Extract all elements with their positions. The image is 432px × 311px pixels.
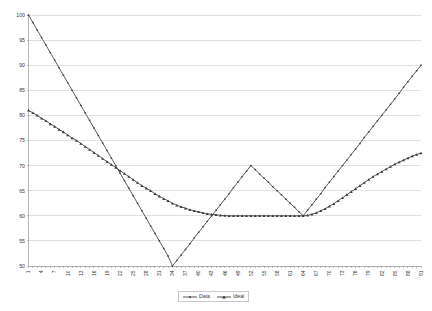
series-marker-data bbox=[372, 126, 374, 128]
x-axis-tick-label: 16 bbox=[91, 270, 97, 276]
series-marker-data bbox=[154, 233, 156, 235]
line-chart-plot: 50556065707580859095100 1471013161922252… bbox=[0, 0, 432, 311]
y-axis-tick-label: 50 bbox=[19, 263, 25, 269]
y-axis-tick-label: 70 bbox=[19, 163, 25, 169]
series-marker-data bbox=[63, 74, 64, 76]
series-marker-data bbox=[128, 187, 130, 189]
legend-entry-data[interactable]: Data bbox=[183, 294, 210, 300]
series-marker-data bbox=[407, 81, 409, 83]
y-axis-tick-label: 90 bbox=[19, 62, 25, 68]
x-axis-tick-label: 10 bbox=[65, 270, 71, 276]
series-marker-data bbox=[58, 67, 60, 69]
x-axis-tick-labels: 1471013161922252831343740434649525558616… bbox=[25, 270, 424, 276]
series-marker-data bbox=[106, 150, 108, 152]
series-marker-data bbox=[333, 176, 335, 178]
series-marker-data bbox=[141, 210, 143, 212]
x-axis-tick-label: 13 bbox=[78, 270, 84, 276]
x-axis-tick-label: 19 bbox=[104, 270, 110, 276]
series-marker-data bbox=[268, 181, 270, 183]
x-axis-tick-label: 55 bbox=[261, 270, 267, 276]
series-marker-data bbox=[281, 194, 283, 196]
series-marker-data bbox=[241, 176, 243, 178]
series-marker-data bbox=[368, 131, 370, 133]
y-axis-tick-label: 80 bbox=[19, 112, 25, 118]
series-marker-data bbox=[71, 90, 73, 92]
series-marker-data bbox=[50, 52, 52, 54]
series-marker-data bbox=[146, 218, 148, 220]
series-marker-data bbox=[311, 204, 313, 206]
series-marker-data bbox=[172, 265, 174, 267]
series-marker-data bbox=[298, 211, 300, 213]
series-marker-data bbox=[115, 165, 117, 167]
series-marker-data bbox=[329, 181, 331, 183]
x-axis-tick-label: 43 bbox=[208, 270, 214, 276]
series-marker-data bbox=[355, 148, 357, 150]
series-marker-data bbox=[84, 112, 86, 114]
x-axis-tick-label: 79 bbox=[365, 270, 371, 276]
series-marker-data bbox=[237, 181, 239, 183]
series-marker-data bbox=[403, 87, 405, 89]
series-marker-data bbox=[359, 143, 361, 145]
series-marker-data bbox=[89, 120, 91, 122]
series-marker-data bbox=[150, 225, 152, 227]
legend-entry-ideal[interactable]: Ideal bbox=[217, 294, 244, 300]
x-axis-tick-label: 67 bbox=[313, 270, 319, 276]
series-marker-data bbox=[32, 22, 34, 24]
series-marker-data bbox=[54, 59, 56, 61]
x-axis-tick-label: 88 bbox=[405, 270, 411, 276]
series-marker-data bbox=[398, 93, 400, 95]
legend-label: Data bbox=[199, 294, 210, 299]
series-marker-data bbox=[193, 237, 195, 239]
series-marker-data bbox=[381, 115, 383, 117]
series-marker-data bbox=[159, 240, 161, 242]
series-marker-data bbox=[263, 177, 265, 179]
x-axis-tick-label: 82 bbox=[379, 270, 385, 276]
x-axis-tick-label: 40 bbox=[195, 270, 201, 276]
y-axis-tick-label: 100 bbox=[16, 12, 25, 18]
series-line-ideal bbox=[29, 110, 422, 215]
series-marker-data bbox=[124, 180, 126, 182]
series-marker-data bbox=[394, 98, 396, 100]
series-marker-data bbox=[364, 137, 366, 139]
series-marker-ideal bbox=[27, 109, 30, 112]
series-marker-data bbox=[250, 165, 252, 167]
series-marker-data bbox=[163, 248, 165, 250]
series-marker-data bbox=[36, 29, 38, 31]
x-axis-tick-label: 91 bbox=[418, 270, 424, 276]
y-axis-tick-label: 85 bbox=[19, 87, 25, 93]
series-marker-data bbox=[377, 120, 379, 122]
series-marker-data bbox=[337, 170, 339, 172]
series-marker-data bbox=[294, 207, 296, 209]
chart-legend: DataIdeal bbox=[178, 291, 249, 302]
series-marker-data bbox=[385, 109, 387, 111]
series-marker-data bbox=[93, 127, 95, 129]
series-marker-data bbox=[67, 82, 69, 84]
y-axis-tick-labels: 50556065707580859095100 bbox=[16, 12, 25, 269]
x-axis-tick-label: 49 bbox=[235, 270, 241, 276]
x-axis-tick-label: 28 bbox=[143, 270, 149, 276]
x-axis-tick-label: 70 bbox=[326, 270, 332, 276]
x-axis-tick-label: 22 bbox=[117, 270, 123, 276]
series-marker-data bbox=[167, 255, 169, 257]
series-marker-data bbox=[28, 14, 30, 16]
x-axis-tick-label: 64 bbox=[300, 270, 306, 276]
series-marker-data bbox=[276, 190, 278, 192]
y-axis-tick-label: 65 bbox=[19, 188, 25, 194]
series-marker-data bbox=[202, 226, 204, 228]
x-axis-tick-label: 61 bbox=[287, 270, 293, 276]
legend-swatch-data-icon bbox=[183, 294, 197, 300]
series-marker-data bbox=[180, 254, 182, 256]
series-marker-data bbox=[272, 186, 274, 188]
series-marker-data bbox=[198, 232, 200, 234]
series-marker-data bbox=[416, 70, 418, 72]
series-marker-data bbox=[215, 210, 217, 212]
series-marker-data bbox=[246, 170, 248, 172]
x-axis-tick-label: 25 bbox=[130, 270, 136, 276]
series-marker-data bbox=[132, 195, 134, 197]
x-axis-tick-label: 52 bbox=[248, 270, 254, 276]
y-axis-tick-label: 55 bbox=[19, 238, 25, 244]
series-marker-data bbox=[259, 173, 261, 175]
series-marker-data bbox=[224, 198, 226, 200]
series-marker-data bbox=[346, 159, 348, 161]
y-axis-tick-label: 60 bbox=[19, 213, 25, 219]
